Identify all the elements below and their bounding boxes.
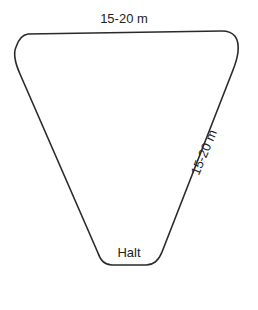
halt-label: Halt bbox=[117, 245, 141, 260]
right-side-label: 15-20 m bbox=[188, 127, 220, 177]
diagram-canvas: 15-20 m 15-20 m Halt bbox=[0, 0, 258, 310]
course-diagram: 15-20 m 15-20 m Halt bbox=[0, 0, 258, 310]
top-side-label: 15-20 m bbox=[100, 11, 148, 26]
